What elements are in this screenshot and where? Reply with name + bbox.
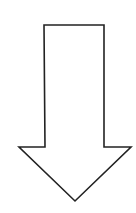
arrow-down-icon xyxy=(0,0,136,213)
down-arrow-shape xyxy=(19,25,131,201)
